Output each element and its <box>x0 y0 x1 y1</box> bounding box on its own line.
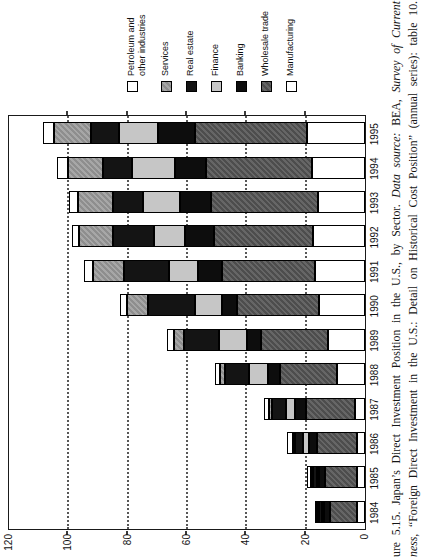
segment-banking-1986 <box>309 432 316 454</box>
caption-line-1: ure 5.15. Japan’s Direct Investment Posi… <box>388 1 405 557</box>
legend-label-real_estate: Real estate <box>185 30 196 76</box>
segment-manufacturing-1994 <box>312 157 365 179</box>
bar-1984 <box>315 501 365 523</box>
segment-manufacturing-1989 <box>328 329 365 351</box>
plot-area <box>8 115 366 530</box>
segment-services-1993 <box>78 191 113 213</box>
segment-wholesale-1988 <box>280 363 337 385</box>
bar-1988 <box>215 363 365 385</box>
segment-banking-1992 <box>185 225 214 247</box>
x-axis-year-label-1988: 1988 <box>369 359 380 391</box>
figure-5-15: Petroleum and other industriesServicesRe… <box>0 0 427 558</box>
segment-wholesale-1994 <box>206 157 312 179</box>
segment-manufacturing-1988 <box>337 363 365 385</box>
rotated-stage: Petroleum and other industriesServicesRe… <box>0 0 427 558</box>
segment-wholesale-1995 <box>195 122 307 144</box>
segment-banking-1995 <box>158 122 195 144</box>
segment-finance-1995 <box>119 122 158 144</box>
y-axis-tick-label-120: 120 <box>3 534 14 558</box>
bar-1990 <box>120 294 365 316</box>
legend-label-services: Services <box>160 41 171 76</box>
caption-bea: BEA, <box>389 93 403 133</box>
segment-services-1994 <box>68 157 104 179</box>
caption-data-source-label: Data source: <box>389 132 403 197</box>
y-axis-tick-right-20 <box>304 111 306 115</box>
segment-services-1995 <box>54 122 91 144</box>
segment-real_estate-1992 <box>113 225 153 247</box>
legend-item-banking: Banking <box>235 0 247 92</box>
segment-wholesale-1986 <box>317 432 357 454</box>
x-axis-year-label-1995: 1995 <box>369 118 380 150</box>
bar-1993 <box>69 191 365 213</box>
segment-manufacturing-1984 <box>357 501 365 523</box>
legend-swatch-services <box>161 81 172 92</box>
y-axis-tick-right-40 <box>244 111 246 115</box>
segment-manufacturing-1995 <box>307 122 365 144</box>
segment-wholesale-1992 <box>214 225 313 247</box>
bar-1992 <box>72 225 365 247</box>
legend-swatch-manufacturing <box>286 81 297 92</box>
legend-item-finance: Finance <box>210 0 222 92</box>
x-axis-year-label-1986: 1986 <box>369 428 380 460</box>
bar-1994 <box>57 157 365 179</box>
caption-source-detail: “Foreign Direct Investment in the U.S.: … <box>406 1 420 534</box>
y-axis-tick-label-20: 20 <box>300 534 311 558</box>
y-axis-tick-label-0: 0 <box>359 534 370 558</box>
bar-1987 <box>264 398 365 420</box>
legend-item-services: Services <box>160 0 172 92</box>
x-axis-year-label-1985: 1985 <box>369 462 380 494</box>
legend-swatch-finance <box>211 81 222 92</box>
segment-finance-1990 <box>195 294 223 316</box>
x-axis-year-label-1994: 1994 <box>369 153 380 185</box>
y-axis-tick-label-60: 60 <box>181 534 192 558</box>
segment-finance-1992 <box>154 225 185 247</box>
segment-banking-1989 <box>247 329 260 351</box>
segment-real_estate-1990 <box>148 294 194 316</box>
segment-services-1991 <box>93 260 125 282</box>
legend-item-real_estate: Real estate <box>185 0 197 92</box>
y-axis-tick-right-80 <box>126 111 128 115</box>
segment-banking-1988 <box>268 363 280 385</box>
y-axis-tick-label-80: 80 <box>122 534 133 558</box>
segment-petroleum-1995 <box>43 122 54 144</box>
segment-real_estate-1995 <box>91 122 119 144</box>
segment-petroleum-1992 <box>72 225 80 247</box>
segment-services-1992 <box>79 225 113 247</box>
segment-real_estate-1986 <box>295 432 303 454</box>
x-axis-year-label-1993: 1993 <box>369 187 380 219</box>
legend-label-banking: Banking <box>235 43 246 76</box>
legend-label-finance: Finance <box>210 44 221 76</box>
legend-swatch-wholesale <box>261 81 272 92</box>
segment-real_estate-1993 <box>113 191 143 213</box>
segment-banking-1993 <box>180 191 211 213</box>
bar-1985 <box>307 466 365 488</box>
caption-journal-name-continued: ness, <box>406 534 420 557</box>
segment-manufacturing-1990 <box>319 294 365 316</box>
bar-1991 <box>84 260 365 282</box>
bar-1995 <box>43 122 365 144</box>
segment-finance-1991 <box>169 260 198 282</box>
segment-services-1990 <box>127 294 148 316</box>
legend-swatch-real_estate <box>186 81 197 92</box>
y-axis-tick-right-100 <box>66 111 68 115</box>
x-axis-year-label-1990: 1990 <box>369 290 380 322</box>
legend: Petroleum and other industriesServicesRe… <box>126 0 310 92</box>
segment-wholesale-1985 <box>325 466 357 488</box>
segment-real_estate-1994 <box>103 157 132 179</box>
segment-manufacturing-1985 <box>357 466 365 488</box>
segment-manufacturing-1986 <box>357 432 365 454</box>
segment-petroleum-1989 <box>167 329 174 351</box>
legend-swatch-petroleum <box>127 81 138 92</box>
segment-wholesale-1993 <box>211 191 318 213</box>
caption-text: ure 5.15. Japan’s Direct Investment Posi… <box>389 198 403 557</box>
segment-wholesale-1991 <box>222 260 315 282</box>
segment-wholesale-1984 <box>330 501 357 523</box>
x-axis-year-label-1989: 1989 <box>369 325 380 357</box>
x-axis-year-label-1992: 1992 <box>369 221 380 253</box>
bar-1986 <box>287 432 365 454</box>
segment-real_estate-1988 <box>225 363 249 385</box>
segment-petroleum-1993 <box>69 191 77 213</box>
segment-real_estate-1989 <box>184 329 220 351</box>
y-axis-tick-right-60 <box>185 111 187 115</box>
segment-manufacturing-1992 <box>313 225 365 247</box>
